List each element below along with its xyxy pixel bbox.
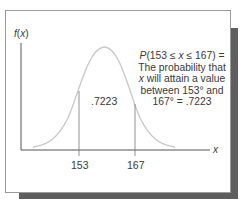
note-line-2: The probability that (138, 62, 226, 74)
area-probability-label: .7223 (91, 96, 117, 107)
note-l3: will attain a value (144, 73, 225, 84)
y-label-func: f (14, 28, 17, 39)
tick-label-153: 153 (71, 160, 89, 171)
note-line-4: between 153° and (138, 85, 226, 97)
note-line-1: P(153 ≤ x ≤ 167) = (138, 50, 226, 62)
x-axis-label: x (213, 145, 218, 155)
note-l1b: ≤ 167) = (184, 50, 225, 61)
note-line-5: 167° = .7223 (138, 96, 226, 108)
note-l1a: (153 ≤ (146, 50, 178, 61)
y-label-var: x (20, 28, 25, 39)
tick-label-167: 167 (127, 160, 145, 171)
y-axis-label: f(x) (14, 29, 28, 39)
probability-annotation: P(153 ≤ x ≤ 167) = The probability that … (138, 50, 226, 108)
note-line-3: x will attain a value (138, 73, 226, 85)
